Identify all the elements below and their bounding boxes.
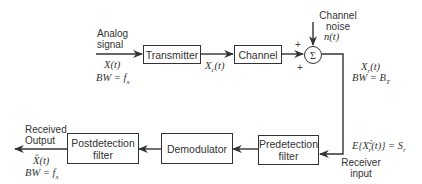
input-label: Analog signal [97,28,128,50]
output-signal-label: X̂(t) [33,155,49,167]
received-bandwidth-label: BW = BT [352,72,390,88]
channel-block: Channel [234,45,282,64]
predetection-label-line1: Predetection [259,138,318,150]
demodulator-label: Demodulator [167,143,227,155]
postdetection-label-line2: filter [93,149,113,161]
transmitter-label: Transmitter [146,49,199,61]
channel-noise-label: Channel noise [316,10,360,32]
receiver-input-label: Receiver input [338,157,384,179]
summing-junction-icon: Σ [304,46,322,64]
transmitter-block: Transmitter [143,45,201,64]
received-output-label: Received Output [25,124,67,146]
postdetection-filter-block: Postdetection filter [67,133,139,164]
signal-power-equation: E{X2r(t)} = Sr [352,136,406,156]
plus-sign-top: + [295,39,301,50]
noise-signal-label: n(t) [324,31,339,43]
plus-sign-bottom: + [297,62,303,73]
predetection-label-line2: filter [279,150,299,162]
input-signal-label: X(t) [104,59,120,71]
postdetection-label-line1: Postdetection [71,137,135,149]
demodulator-block: Demodulator [161,133,233,164]
transmitted-signal-label: Xc(t) [205,60,224,76]
output-bandwidth-label: BW = fx [25,167,59,183]
input-bandwidth-label: BW = fx [96,72,130,88]
predetection-filter-block: Predetection filter [258,135,319,165]
channel-label: Channel [238,49,277,61]
